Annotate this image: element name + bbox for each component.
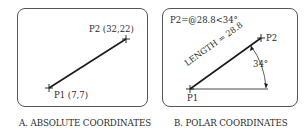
- polar-p2-label: P2: [266, 34, 277, 43]
- absolute-caption: A. ABSOLUTE COORDINATES: [19, 119, 151, 128]
- polar-p1-label: P1: [187, 94, 198, 103]
- arc-arrowhead-top: [250, 46, 254, 51]
- polar-formula: P2=@28.8<34°: [170, 16, 238, 25]
- absolute-line: [45, 35, 130, 92]
- angle-label: 34°: [253, 60, 268, 69]
- arc-arrowhead-bottom: [264, 83, 268, 88]
- polar-caption: B. POLAR COORDINATES: [174, 119, 288, 128]
- absolute-p1-label: P1 (7,7): [54, 91, 88, 100]
- absolute-p2-label: P2 (32,22): [89, 25, 134, 34]
